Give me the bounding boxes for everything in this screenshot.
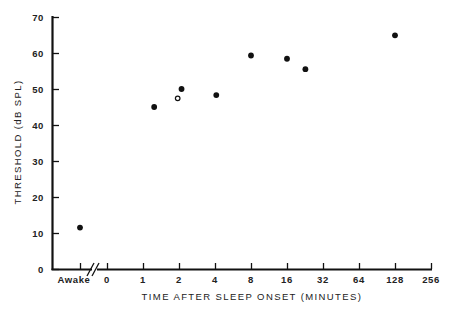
data-points (77, 32, 398, 230)
chart: THRESHOLD (dB SPL) TIME AFTER SLEEP ONSE… (0, 0, 449, 311)
data-point-filled (284, 56, 290, 62)
data-point-filled (151, 104, 157, 110)
data-point-filled (77, 225, 83, 231)
axes (52, 16, 433, 276)
data-point-filled (302, 66, 308, 72)
y-ticks: 010203040506070 (32, 12, 59, 275)
y-tick-label: 10 (32, 228, 44, 239)
x-tick-label: 0 (104, 274, 110, 285)
x-tick-label: 128 (386, 274, 404, 285)
x-tick-label: 32 (317, 274, 329, 285)
data-point-filled (392, 32, 398, 38)
y-tick-label: 70 (32, 12, 44, 23)
y-tick-label: 30 (32, 156, 44, 167)
x-tick-label: 16 (281, 274, 293, 285)
y-tick-label: 20 (32, 192, 44, 203)
data-point-filled (248, 53, 254, 59)
y-axis-title: THRESHOLD (dB SPL) (12, 80, 23, 205)
y-tick-label: 50 (32, 84, 44, 95)
y-tick-label: 40 (32, 120, 44, 131)
data-point-filled (213, 92, 219, 98)
x-tick-label: 64 (353, 274, 365, 285)
x-ticks: Awake01248163264128256 (58, 263, 440, 285)
data-point-open (175, 96, 180, 101)
x-axis-title: TIME AFTER SLEEP ONSET (MINUTES) (142, 291, 363, 302)
x-tick-label: 4 (212, 274, 218, 285)
x-tick-label: Awake (58, 274, 91, 285)
x-tick-label: 256 (422, 274, 440, 285)
y-tick-label: 0 (38, 264, 44, 275)
y-tick-label: 60 (32, 48, 44, 59)
x-tick-label: 2 (176, 274, 182, 285)
data-point-filled (179, 86, 185, 92)
x-tick-label: 8 (248, 274, 254, 285)
x-tick-label: 1 (140, 274, 146, 285)
